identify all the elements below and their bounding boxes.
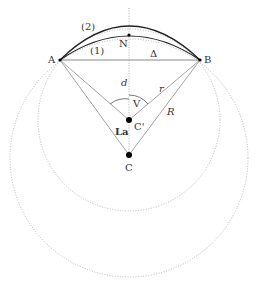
line-a-c [60,60,129,155]
label-c-prime: C' [134,121,144,132]
label-arc-inner: (1) [90,45,104,56]
point-a [58,58,61,61]
line-b-cprime [129,60,200,120]
label-radius-small: r [159,83,165,94]
point-n [127,33,130,36]
point-c [126,152,132,158]
label-b: B [204,54,211,65]
label-radius-large: R [166,106,175,117]
point-b [198,58,201,61]
label-n: N [119,38,128,49]
label-arc-outer: (2) [81,21,95,32]
label-angle-la: La [115,126,129,137]
label-angle-v: V [132,98,141,109]
label-c: C [125,162,133,173]
label-a: A [47,54,56,65]
label-distance: d [121,77,127,88]
geometry-diagram: A B N C' C (2) (1) Δ d V La r R [0,0,260,288]
label-chord: Δ [150,48,157,59]
angle-la-arc [110,99,129,104]
arc-inner [60,36,200,60]
line-a-cprime [60,60,129,120]
point-c-prime [126,117,132,123]
